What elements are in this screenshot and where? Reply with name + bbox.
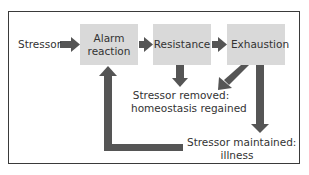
arrow-exhaustion-to-removed bbox=[218, 65, 249, 90]
exhaustion-box: Exhaustion bbox=[227, 24, 285, 65]
resistance-box: Resistance bbox=[153, 24, 211, 65]
resistance-label: Resistance bbox=[154, 38, 211, 51]
stressor-maintained-label: Stressor maintained: illness bbox=[187, 136, 287, 162]
exhaustion-label: Exhaustion bbox=[231, 38, 289, 51]
stressor-maintained-line1: Stressor maintained: bbox=[187, 136, 287, 149]
stressor-maintained-line2: illness bbox=[187, 149, 287, 162]
arrow-resistance-to-exhaustion bbox=[212, 37, 227, 52]
alarm-reaction-line1: Alarm bbox=[88, 32, 131, 45]
alarm-reaction-line2: reaction bbox=[88, 45, 131, 58]
stressor-removed-line1: Stressor removed: bbox=[131, 89, 231, 102]
arrow-exhaustion-to-maintained bbox=[251, 65, 269, 133]
arrow-resistance-to-removed bbox=[172, 65, 188, 87]
stressor-removed-label: Stressor removed: homeostasis regained bbox=[131, 89, 231, 115]
stressor-label: Stressor bbox=[18, 38, 61, 51]
stressor-removed-line2: homeostasis regained bbox=[131, 102, 231, 115]
arrow-stressor-to-alarm bbox=[60, 37, 80, 52]
alarm-reaction-box: Alarm reaction bbox=[80, 24, 138, 65]
arrow-alarm-to-resistance bbox=[139, 37, 153, 52]
